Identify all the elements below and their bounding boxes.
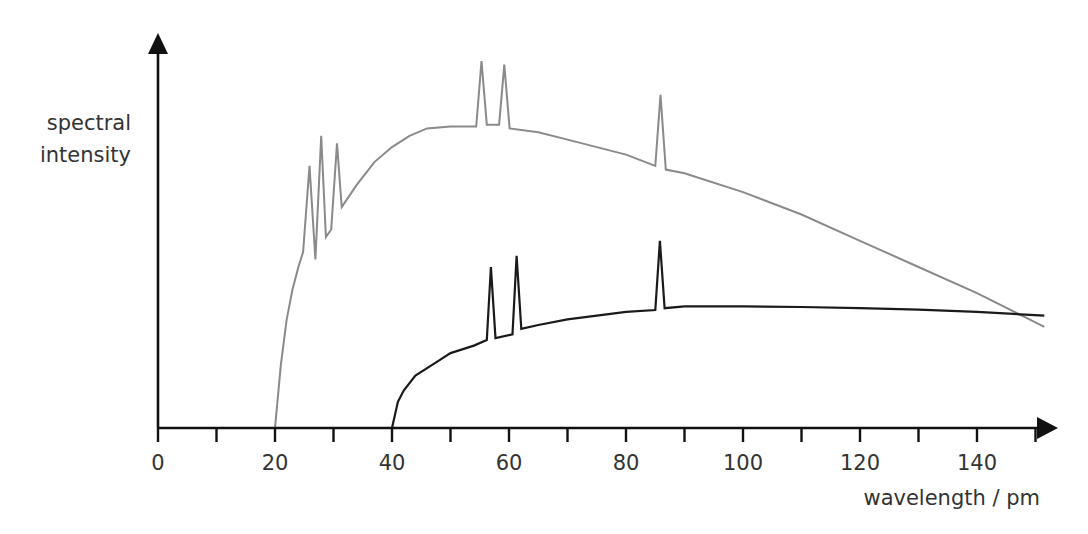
x-axis-arrow-icon — [1037, 417, 1058, 439]
x-axis-ticks — [158, 428, 1036, 442]
x-tick-label: 120 — [840, 451, 880, 475]
x-tick-label: 80 — [613, 451, 640, 475]
y-axis-label-line-2: intensity — [40, 143, 131, 167]
series-layer — [275, 61, 1044, 428]
x-axis-tick-labels: 020406080100120140 — [151, 451, 997, 475]
x-axis-label: wavelength / pm — [863, 486, 1040, 510]
x-tick-label: 0 — [151, 451, 164, 475]
x-tick-label: 20 — [262, 451, 289, 475]
series-black-spectrum — [392, 241, 1044, 428]
x-tick-label: 100 — [723, 451, 763, 475]
y-axis-arrow-icon — [148, 33, 168, 54]
y-axis-label-line-1: spectral — [47, 111, 131, 135]
x-tick-label: 40 — [379, 451, 406, 475]
spectrum-chart: 020406080100120140 spectral intensity wa… — [0, 0, 1088, 534]
x-tick-label: 140 — [957, 451, 997, 475]
x-tick-label: 60 — [496, 451, 523, 475]
